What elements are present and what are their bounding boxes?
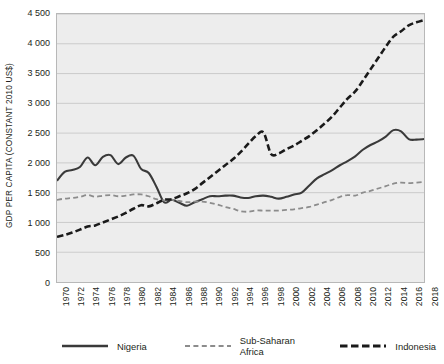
y-axis-tick-label: 1 500 xyxy=(27,188,50,198)
plot-area xyxy=(56,13,425,283)
x-axis-tick-label: 2004 xyxy=(322,287,332,306)
y-axis-tick-label: 1 000 xyxy=(27,218,50,228)
x-axis-tick-labels: 1970197219741976197819801982198419861988… xyxy=(56,285,425,329)
y-axis-tick-labels: 05001 0001 5002 0002 5003 0003 5004 0004… xyxy=(16,0,54,290)
x-axis-tick-label: 2012 xyxy=(383,287,393,306)
x-axis-tick-label: 1986 xyxy=(184,287,194,306)
x-axis-tick-label: 1990 xyxy=(214,287,224,306)
legend-label-sub-saharan-africa: Sub-Saharan Africa xyxy=(240,335,303,357)
x-axis-tick-label: 1988 xyxy=(199,287,209,306)
x-axis-tick-label: 1982 xyxy=(153,287,163,306)
x-axis-tick-label: 1996 xyxy=(260,287,270,306)
x-axis-tick-label: 2018 xyxy=(430,287,440,306)
y-axis-tick-label: 3 500 xyxy=(27,68,50,78)
x-axis-tick-label: 2000 xyxy=(291,287,301,306)
y-axis-tick-label: 4 000 xyxy=(27,38,50,48)
x-axis-tick-label: 2014 xyxy=(399,287,409,306)
x-axis-tick-label: 1984 xyxy=(168,287,178,306)
x-axis-tick-label: 1972 xyxy=(76,287,86,306)
x-axis-tick-label: 2010 xyxy=(368,287,378,306)
x-axis-tick-label: 1970 xyxy=(61,287,71,306)
x-axis-tick-label: 2006 xyxy=(337,287,347,306)
legend-item-indonesia: Indonesia xyxy=(340,341,436,352)
legend-swatch-nigeria xyxy=(62,341,108,351)
x-axis-tick-label: 1992 xyxy=(230,287,240,306)
legend-item-nigeria: Nigeria xyxy=(62,341,147,352)
x-axis-tick-label: 1978 xyxy=(122,287,132,306)
legend-label-nigeria: Nigeria xyxy=(117,341,147,352)
x-axis-tick-label: 1976 xyxy=(107,287,117,306)
y-axis-tick-label: 0 xyxy=(45,278,50,288)
x-axis-tick-label: 1994 xyxy=(245,287,255,306)
x-axis-tick-label: 2016 xyxy=(414,287,424,306)
legend-item-sub-saharan-africa: Sub-Saharan Africa xyxy=(185,335,303,357)
legend-swatch-sub-saharan-africa xyxy=(185,341,231,351)
y-axis-tick-label: 2 000 xyxy=(27,158,50,168)
y-axis-tick-label: 3 000 xyxy=(27,98,50,108)
series-line-nigeria xyxy=(57,130,424,206)
plot-svg xyxy=(57,14,424,282)
x-axis-tick-label: 1998 xyxy=(276,287,286,306)
y-axis-tick-label: 2 500 xyxy=(27,128,50,138)
y-axis-tick-label: 4 500 xyxy=(27,8,50,18)
series-line-indonesia xyxy=(57,20,424,237)
legend-swatch-indonesia xyxy=(340,341,386,351)
x-axis-tick-label: 2002 xyxy=(307,287,317,306)
gdp-per-capita-line-chart: GDP PER CAPITA (CONSTANT 2010 US$) 05001… xyxy=(0,0,444,364)
chart-legend: Nigeria Sub-Saharan Africa Indonesia xyxy=(56,336,436,356)
x-axis-tick-label: 1974 xyxy=(91,287,101,306)
legend-label-indonesia: Indonesia xyxy=(395,341,436,352)
y-axis-tick-label: 500 xyxy=(35,248,50,258)
x-axis-tick-label: 1980 xyxy=(137,287,147,306)
x-axis-tick-label: 2008 xyxy=(353,287,363,306)
y-axis-title-text: GDP PER CAPITA (CONSTANT 2010 US$) xyxy=(5,63,14,228)
